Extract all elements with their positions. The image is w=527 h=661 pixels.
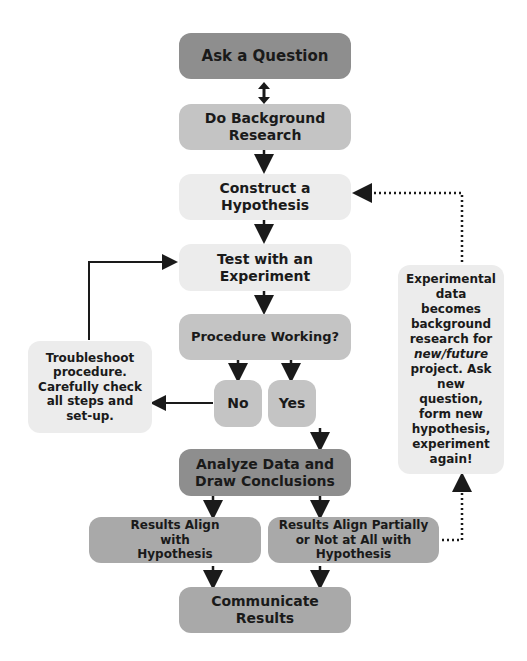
dotted-arrow-left-icon [362,193,462,262]
node-analyze: Analyze Data and Draw Conclusions [179,449,351,496]
node-no: No [214,380,262,427]
node-label: Procedure Working? [191,329,339,345]
node-label: Test with an Experiment [209,251,321,285]
node-label: No [227,395,248,412]
node-label: Results Align with Hypothesis [121,518,229,561]
node-communicate: Communicate Results [179,587,351,633]
loop-arrow-icon [89,262,170,340]
node-label: Construct a Hypothesis [209,180,321,214]
node-label: Do Background Research [201,110,329,144]
double-arrow-icon [258,82,270,104]
node-label: Results Align Partially or Not at All wi… [272,518,435,561]
node-yes: Yes [268,380,316,427]
node-label: Troubleshoot procedure. Carefully check … [36,351,144,423]
node-feedback: Experimental data becomes background res… [398,265,504,474]
node-label: Communicate Results [209,593,321,627]
node-results-partial: Results Align Partially or Not at All wi… [268,517,439,563]
node-troubleshoot: Troubleshoot procedure. Carefully check … [28,341,152,433]
node-results-align: Results Align with Hypothesis [89,517,261,563]
node-procedure-working: Procedure Working? [179,314,351,360]
feedback-text-pre: Experimental data becomes background res… [406,272,496,346]
feedback-text-emphasis: new/future [414,347,488,361]
node-label: Experimental data becomes background res… [404,272,498,467]
node-label: Yes [279,395,306,412]
feedback-text-post: project. Ask new question, form new hypo… [411,362,492,466]
node-ask-question: Ask a Question [179,33,351,79]
node-experiment: Test with an Experiment [179,244,351,291]
node-label: Ask a Question [202,47,329,65]
node-hypothesis: Construct a Hypothesis [179,174,351,220]
node-background-research: Do Background Research [179,104,351,150]
node-label: Analyze Data and Draw Conclusions [189,456,341,490]
dotted-arrow-up-icon [442,482,462,540]
